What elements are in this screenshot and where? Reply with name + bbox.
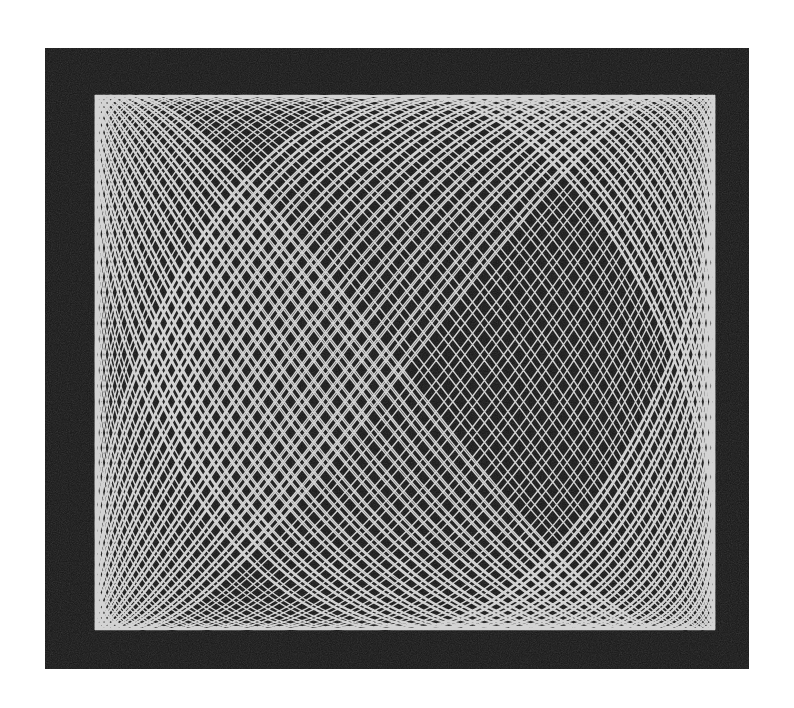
photo-frame	[45, 48, 749, 669]
harmonograph-curve	[45, 48, 749, 669]
